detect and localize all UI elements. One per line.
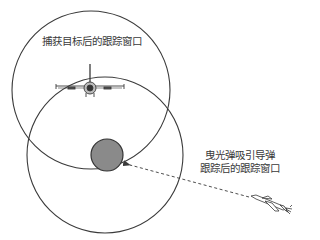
flare-icon <box>91 139 123 171</box>
decoy-window-label: 曳光弹吸引导弹 跟踪后的跟踪窗口 <box>200 149 280 175</box>
target-aircraft-icon <box>56 64 124 97</box>
decoy-window-label-line2: 跟踪后的跟踪窗口 <box>200 162 280 175</box>
acquired-window-label: 捕获目标后的跟踪窗口 <box>42 35 142 48</box>
decoy-window-label-line1: 曳光弹吸引导弹 <box>200 149 280 162</box>
missile-icon <box>251 195 292 214</box>
